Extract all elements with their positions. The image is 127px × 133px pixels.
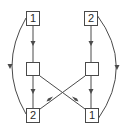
arrowhead-icon: [31, 41, 36, 46]
node-label: 1: [89, 110, 95, 121]
node-label: 2: [88, 13, 94, 24]
node-label: 1: [30, 13, 36, 24]
node-label: 2: [30, 110, 36, 121]
node-mid-right: [85, 62, 99, 76]
arrowhead-icon: [89, 89, 94, 94]
arrowhead-icon: [31, 89, 36, 94]
node-mid-left: [26, 62, 40, 76]
node-bottom-right: 1: [85, 108, 99, 123]
node-top-right: 2: [84, 11, 98, 26]
node-top-left: 1: [26, 11, 40, 26]
node-bottom-left: 2: [26, 108, 40, 123]
arrowhead-icon: [115, 65, 120, 70]
edge-arc-left: [12, 18, 26, 114]
flow-diagram: 1 2 2 1: [0, 0, 127, 133]
arrowhead-icon: [89, 41, 94, 46]
edge-arc-right: [97, 15, 116, 119]
diagram-edges: [0, 0, 127, 133]
